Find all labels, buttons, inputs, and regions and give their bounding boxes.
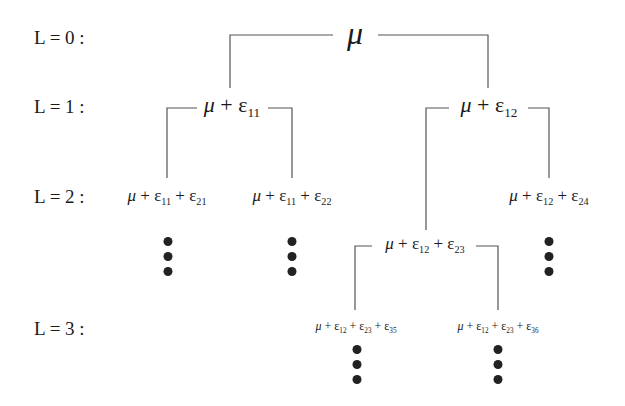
node-eps12-eps23-eps35: μ + ε12 + ε23 + ε35 bbox=[315, 319, 396, 335]
term: + ε bbox=[347, 319, 365, 333]
mu-symbol: μ bbox=[204, 92, 215, 117]
mu-symbol: μ bbox=[461, 92, 472, 117]
node-eps12: μ + ε12 bbox=[461, 92, 518, 121]
ellipsis-icon bbox=[288, 237, 297, 276]
mu-symbol: μ bbox=[509, 186, 518, 205]
connector-n12-right bbox=[528, 108, 549, 178]
connector-root-left bbox=[230, 35, 333, 88]
subscript: 23 bbox=[364, 327, 371, 335]
subscript: 12 bbox=[543, 196, 553, 207]
subscript: 35 bbox=[389, 327, 396, 335]
term: + ε bbox=[514, 319, 532, 333]
subscript: 12 bbox=[419, 244, 429, 255]
node-eps11: μ + ε11 bbox=[204, 92, 260, 121]
term: + ε bbox=[322, 319, 340, 333]
subscript: 24 bbox=[579, 196, 589, 207]
term: + ε bbox=[372, 319, 390, 333]
connector-n23-left bbox=[355, 246, 372, 310]
term: + ε bbox=[553, 186, 578, 205]
node-eps12-eps23-eps36: μ + ε12 + ε23 + ε36 bbox=[457, 319, 538, 335]
ellipsis-icon bbox=[545, 237, 554, 276]
subscript: 11 bbox=[161, 196, 171, 207]
term: + ε bbox=[429, 234, 454, 253]
subscript: 12 bbox=[504, 105, 517, 120]
node-root: μ bbox=[347, 15, 363, 52]
subscript: 12 bbox=[481, 327, 488, 335]
mu-symbol: μ bbox=[347, 15, 363, 51]
subscript: 36 bbox=[531, 327, 538, 335]
mu-symbol: μ bbox=[127, 186, 136, 205]
term: + ε bbox=[464, 319, 482, 333]
connector-n11-left bbox=[167, 108, 197, 178]
term: + ε bbox=[261, 186, 286, 205]
term: + ε bbox=[136, 186, 161, 205]
term: + ε bbox=[296, 186, 321, 205]
mu-symbol: μ bbox=[252, 186, 261, 205]
ellipsis-icon bbox=[494, 345, 503, 384]
node-eps11-eps22: μ + ε11 + ε22 bbox=[252, 186, 331, 207]
ellipsis-icon bbox=[353, 345, 362, 384]
mu-symbol: μ bbox=[385, 234, 394, 253]
subscript: 11 bbox=[286, 196, 296, 207]
connector-n23-right bbox=[476, 246, 498, 310]
term: + ε bbox=[394, 234, 419, 253]
connector-n12-left bbox=[426, 108, 449, 230]
subscript: 12 bbox=[339, 327, 346, 335]
term: + ε bbox=[489, 319, 507, 333]
term: + ε bbox=[518, 186, 543, 205]
node-eps12-eps23: μ + ε12 + ε23 bbox=[385, 234, 464, 255]
connector-n11-right bbox=[268, 108, 292, 178]
node-eps12-eps24: μ + ε12 + ε24 bbox=[509, 186, 588, 207]
subscript: 21 bbox=[196, 196, 206, 207]
subscript: 23 bbox=[455, 244, 465, 255]
node-eps11-eps21: μ + ε11 + ε21 bbox=[127, 186, 206, 207]
connector-root-right bbox=[378, 35, 488, 88]
subscript: 23 bbox=[506, 327, 513, 335]
subscript: 22 bbox=[321, 196, 331, 207]
subscript: 11 bbox=[248, 105, 261, 120]
ellipsis-icon bbox=[164, 237, 173, 276]
term: + ε bbox=[215, 92, 248, 117]
term: + ε bbox=[171, 186, 196, 205]
term: + ε bbox=[472, 92, 505, 117]
